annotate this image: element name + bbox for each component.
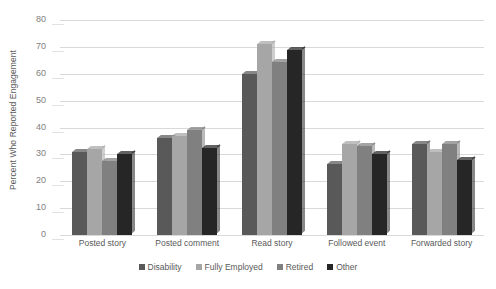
- bar[interactable]: [412, 144, 427, 235]
- y-axis-tick-label: 10: [8, 202, 46, 212]
- bar-side-face: [132, 150, 135, 233]
- bar[interactable]: [117, 154, 132, 235]
- bar-face: [357, 146, 372, 235]
- bar-slot: [242, 20, 257, 235]
- legend-swatch-icon: [277, 264, 283, 270]
- bar-slot: [187, 20, 202, 235]
- gridline: [60, 235, 484, 236]
- bar-face: [257, 44, 272, 235]
- bar-slot: [372, 20, 387, 235]
- bar-side-face: [387, 150, 390, 233]
- bar-face: [287, 50, 302, 235]
- bar-slot: [427, 20, 442, 235]
- bar-face: [412, 144, 427, 235]
- bar[interactable]: [442, 144, 457, 235]
- legend-item[interactable]: Other: [327, 262, 357, 272]
- bar-face: [187, 130, 202, 235]
- y-axis-tick-label: 20: [8, 175, 46, 185]
- legend-label: Other: [336, 262, 357, 272]
- x-axis-label: Forwarded story: [399, 238, 484, 248]
- bar-side-face: [472, 156, 475, 234]
- x-axis-labels: Posted storyPosted commentRead storyFoll…: [60, 238, 484, 248]
- bar-face: [457, 160, 472, 235]
- x-axis-label: Read story: [230, 238, 315, 248]
- bar-slot: [272, 20, 287, 235]
- bar-face: [327, 164, 342, 235]
- bar-slot: [442, 20, 457, 235]
- bar-face: [342, 144, 357, 235]
- bar-slot: [327, 20, 342, 235]
- bar[interactable]: [202, 148, 217, 235]
- bar[interactable]: [187, 130, 202, 235]
- y-axis-tick-label: 80: [8, 14, 46, 24]
- bar-slot: [342, 20, 357, 235]
- bar-side-face: [217, 143, 220, 233]
- legend-label: Disability: [148, 262, 182, 272]
- y-axis-tick-label: 50: [8, 95, 46, 105]
- bar[interactable]: [372, 154, 387, 235]
- bar-slot: [102, 20, 117, 235]
- bar-group: [314, 20, 399, 235]
- bar[interactable]: [72, 152, 87, 235]
- bar-groups: [60, 20, 484, 235]
- legend-swatch-icon: [327, 264, 333, 270]
- y-axis-tick-label: 60: [8, 68, 46, 78]
- legend-item[interactable]: Disability: [139, 262, 182, 272]
- legend-swatch-icon: [139, 264, 145, 270]
- bar-face: [117, 154, 132, 235]
- bar-chart: Percent Who Reported Engagement 80706050…: [0, 0, 496, 289]
- bar[interactable]: [87, 149, 102, 235]
- bar[interactable]: [357, 146, 372, 235]
- x-axis-label: Posted story: [60, 238, 145, 248]
- bar-slot: [87, 20, 102, 235]
- legend-item[interactable]: Retired: [277, 262, 313, 272]
- bar[interactable]: [257, 44, 272, 235]
- bar-slot: [202, 20, 217, 235]
- bar-slot: [457, 20, 472, 235]
- bar-face: [427, 152, 442, 235]
- bar[interactable]: [242, 74, 257, 235]
- bar[interactable]: [157, 138, 172, 235]
- bar-face: [442, 144, 457, 235]
- bar-group: [399, 20, 484, 235]
- bar-face: [372, 154, 387, 235]
- bar[interactable]: [172, 136, 187, 235]
- y-axis-tick-label: 30: [8, 148, 46, 158]
- x-axis-label: Followed event: [314, 238, 399, 248]
- bar[interactable]: [272, 62, 287, 235]
- bar-slot: [157, 20, 172, 235]
- bar-face: [202, 148, 217, 235]
- bar[interactable]: [457, 160, 472, 235]
- bar-slot: [172, 20, 187, 235]
- y-axis-tick-label: 40: [8, 122, 46, 132]
- bar-face: [172, 136, 187, 235]
- bar-group: [145, 20, 230, 235]
- bar-group: [230, 20, 315, 235]
- bar[interactable]: [342, 144, 357, 235]
- x-axis-label: Posted comment: [145, 238, 230, 248]
- bar-side-face: [302, 45, 305, 233]
- legend-label: Fully Employed: [205, 262, 263, 272]
- y-axis-tick-label: 70: [8, 41, 46, 51]
- bar-face: [157, 138, 172, 235]
- legend: DisabilityFully EmployedRetiredOther: [0, 262, 496, 272]
- legend-swatch-icon: [196, 264, 202, 270]
- bar-face: [87, 149, 102, 235]
- legend-item[interactable]: Fully Employed: [196, 262, 263, 272]
- bar-slot: [257, 20, 272, 235]
- bar-face: [72, 152, 87, 235]
- bar-face: [102, 161, 117, 235]
- bar[interactable]: [287, 50, 302, 235]
- bar-slot: [72, 20, 87, 235]
- bar-face: [272, 62, 287, 235]
- bar-face: [242, 74, 257, 235]
- legend-label: Retired: [286, 262, 313, 272]
- bar[interactable]: [427, 152, 442, 235]
- bar-slot: [412, 20, 427, 235]
- bar[interactable]: [327, 164, 342, 235]
- bar[interactable]: [102, 161, 117, 235]
- bar-slot: [117, 20, 132, 235]
- bar-slot: [357, 20, 372, 235]
- bar-group: [60, 20, 145, 235]
- y-axis-tick-label: 0: [8, 229, 46, 239]
